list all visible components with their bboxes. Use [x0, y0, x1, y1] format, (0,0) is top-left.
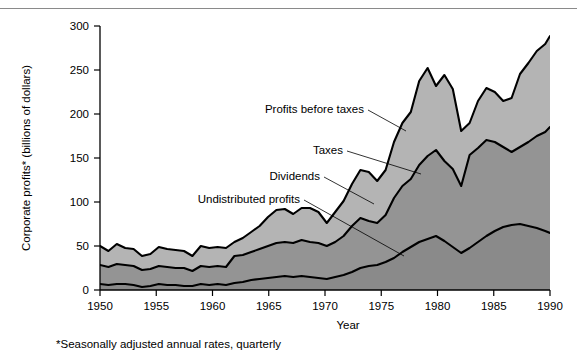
annotation-dividends: Dividends — [270, 170, 321, 182]
y-tick-label-250: 250 — [70, 64, 89, 76]
chart-footnote: *Seasonally adjusted annual rates, quart… — [56, 338, 281, 350]
y-tick-label-0: 0 — [83, 284, 89, 296]
x-tick-label-1965: 1965 — [256, 300, 282, 312]
x-tick-label-1970: 1970 — [312, 300, 338, 312]
annotation-taxes: Taxes — [313, 144, 343, 156]
y-tick-label-300: 300 — [70, 20, 89, 32]
annotation-undistributed-profits: Undistributed profits — [198, 193, 301, 205]
x-tick-label-1955: 1955 — [143, 300, 169, 312]
corporate-profits-area-chart: 300 250 200 150 100 50 0 Corporate profi… — [0, 0, 577, 363]
x-tick-label-1975: 1975 — [368, 300, 394, 312]
y-axis: 300 250 200 150 100 50 0 Corporate profi… — [20, 20, 100, 296]
area-bands — [100, 36, 550, 290]
x-tick-label-1950: 1950 — [87, 300, 113, 312]
y-tick-label-50: 50 — [76, 240, 89, 252]
y-tick-label-150: 150 — [70, 152, 89, 164]
x-tick-label-1985: 1985 — [481, 300, 507, 312]
annotation-profits-before-taxes: Profits before taxes — [265, 103, 364, 115]
y-axis-title: Corporate profits* (billions of dollars) — [20, 65, 32, 251]
x-axis-title: Year — [336, 319, 359, 331]
y-tick-label-100: 100 — [70, 196, 89, 208]
x-tick-label-1980: 1980 — [425, 300, 451, 312]
chart-page: 300 250 200 150 100 50 0 Corporate profi… — [0, 0, 577, 363]
x-tick-label-1990: 1990 — [537, 300, 563, 312]
y-tick-label-200: 200 — [70, 108, 89, 120]
x-tick-label-1960: 1960 — [200, 300, 226, 312]
x-axis: 1950 1955 1960 1965 1970 1975 1980 1985 … — [87, 290, 563, 331]
